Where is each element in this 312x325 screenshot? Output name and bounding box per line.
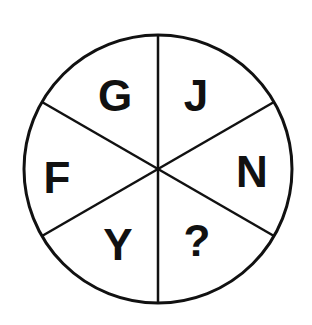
segment-bottom-right-letter: ? [184, 216, 211, 265]
segment-top-right-letter: J [184, 71, 208, 120]
segment-bottom-left-letter: Y [103, 220, 132, 269]
letter-wheel: G J N ? Y F [0, 0, 312, 325]
segment-right-letter: N [236, 147, 268, 196]
segment-top-left-letter: G [98, 71, 132, 120]
segment-left-letter: F [44, 153, 71, 202]
